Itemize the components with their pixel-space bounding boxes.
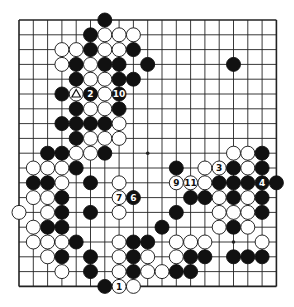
black-stone [69,117,83,131]
white-stone [169,250,183,264]
black-stone [126,43,140,57]
black-stone [255,146,269,160]
white-stone [241,146,255,160]
white-stone [55,43,69,57]
move-number-label: 6 [130,193,136,203]
black-stone [198,250,212,264]
white-stone [212,220,226,234]
black-stone [227,191,241,205]
black-stone [169,205,183,219]
black-stone [184,191,198,205]
black-stone [84,117,98,131]
white-stone [141,250,155,264]
black-stone [69,161,83,175]
white-stone [112,235,126,249]
black-stone [84,176,98,190]
black-stone [212,176,226,190]
black-stone [84,250,98,264]
white-stone [184,235,198,249]
white-stone [212,205,226,219]
white-stone [98,43,112,57]
white-stone [241,205,255,219]
white-stone [126,279,140,293]
black-stone [55,205,69,219]
black-stone [227,161,241,175]
white-stone [55,265,69,279]
white-stone [69,43,83,57]
move-number-label: 9 [173,178,179,188]
black-stone [69,57,83,71]
black-stone [41,220,55,234]
black-stone [55,191,69,205]
white-stone [112,250,126,264]
black-stone [55,117,69,131]
white-stone [241,220,255,234]
move-number-label: 2 [87,89,93,99]
black-stone [84,43,98,57]
white-stone [198,176,212,190]
black-stone [55,87,69,101]
white-stone [41,250,55,264]
white-stone [155,265,169,279]
black-stone [227,250,241,264]
white-stone [69,146,83,160]
black-stone [69,235,83,249]
white-stone [227,205,241,219]
black-stone [255,191,269,205]
black-stone [184,265,198,279]
move-number-label: 3 [216,163,222,173]
black-stone [98,57,112,71]
black-stone [141,57,155,71]
black-stone [41,146,55,160]
black-stone [227,176,241,190]
move-number-label: 10 [113,89,126,99]
black-stone [84,28,98,42]
white-stone [112,131,126,145]
black-stone [84,205,98,219]
black-stone [55,220,69,234]
white-stone [26,191,40,205]
white-stone [41,191,55,205]
white-stone [98,102,112,116]
white-stone [112,28,126,42]
white-stone [241,191,255,205]
black-stone [169,265,183,279]
black-stone [227,57,241,71]
white-stone [141,265,155,279]
white-stone [41,235,55,249]
white-stone [227,146,241,160]
white-stone [198,235,212,249]
white-stone [198,161,212,175]
star-point [146,151,150,155]
white-stone [98,72,112,86]
white-stone [98,87,112,101]
white-stone [84,146,98,160]
move-number-label: 7 [116,193,122,203]
white-stone [112,117,126,131]
black-stone [69,72,83,86]
white-stone [26,161,40,175]
black-stone [55,146,69,160]
black-stone [141,235,155,249]
black-stone [98,279,112,293]
black-stone [241,176,255,190]
black-stone [126,235,140,249]
black-stone [98,117,112,131]
black-stone [98,13,112,27]
white-stone [26,220,40,234]
white-stone [84,102,98,116]
black-stone [112,57,126,71]
black-stone [255,250,269,264]
white-stone [255,235,269,249]
black-stone [126,265,140,279]
move-number-label: 11 [184,178,197,188]
black-stone [26,176,40,190]
black-stone [55,250,69,264]
black-stone [198,191,212,205]
white-stone [84,131,98,145]
white-stone [12,205,26,219]
white-stone [112,43,126,57]
white-stone [26,235,40,249]
white-stone [241,161,255,175]
move-number-label: 1 [116,282,122,292]
